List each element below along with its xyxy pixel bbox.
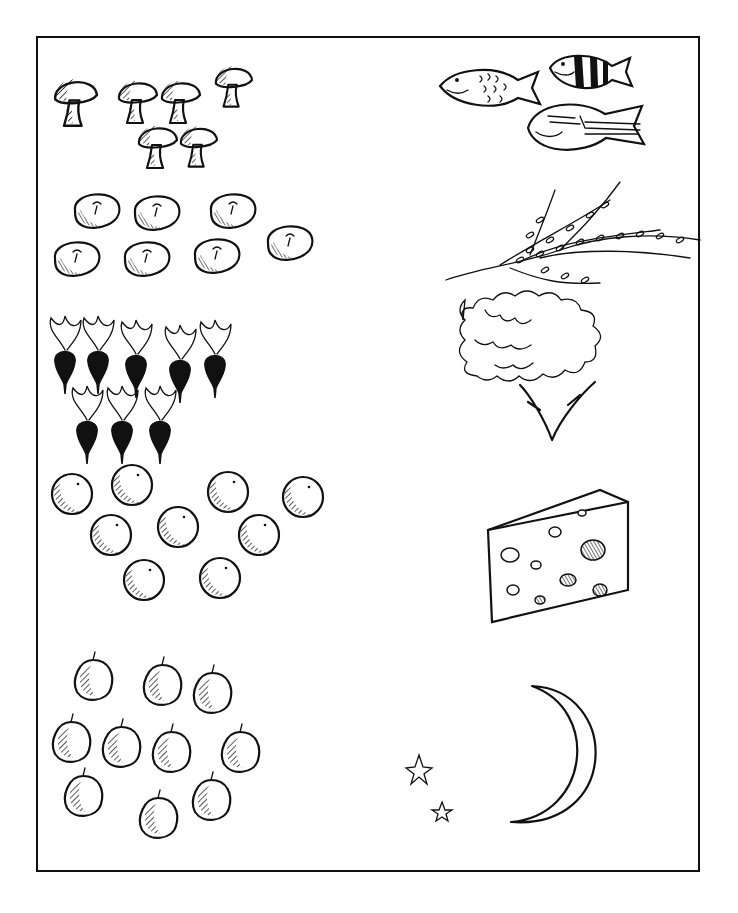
mushroom-icon	[162, 81, 200, 123]
mushroom-group	[55, 67, 252, 168]
orange-group	[52, 465, 323, 600]
worksheet-drawing	[0, 0, 738, 913]
crescent-moon-icon	[511, 686, 596, 822]
plum-icon	[193, 772, 230, 820]
mushroom-icon	[216, 67, 252, 107]
orange-icon	[124, 560, 164, 600]
plum-icon	[75, 652, 112, 700]
tomato-icon	[125, 242, 169, 276]
herb-leaf	[526, 246, 535, 253]
orange-icon	[283, 477, 323, 517]
cheese-wedge-icon	[488, 490, 628, 622]
orange-icon	[208, 472, 248, 512]
fish-icon	[440, 70, 540, 106]
night-sky-group	[406, 686, 596, 822]
tomato-icon	[135, 196, 179, 230]
tomato-icon	[55, 242, 99, 276]
tomato-group	[55, 194, 312, 276]
radish-icon	[83, 316, 114, 394]
radish-icon	[121, 320, 152, 398]
radish-icon	[200, 320, 231, 398]
herb-bunch-icon	[446, 182, 700, 440]
plum-icon	[140, 790, 177, 838]
mushroom-icon	[55, 79, 97, 125]
herb-leaf	[556, 244, 565, 251]
plum-icon	[103, 719, 140, 767]
orange-icon	[239, 515, 279, 555]
herb-leaf	[581, 276, 590, 283]
orange-icon	[52, 474, 92, 514]
mushroom-icon	[119, 81, 157, 123]
herb-leaf	[561, 272, 570, 279]
plum-icon	[194, 665, 231, 713]
radish-icon	[165, 325, 196, 403]
orange-icon	[91, 515, 131, 555]
radish-icon	[107, 386, 138, 464]
orange-icon	[112, 465, 152, 505]
fish-group	[440, 56, 644, 150]
star-icon	[406, 755, 432, 784]
plum-icon	[65, 768, 102, 816]
fish-icon	[550, 56, 632, 88]
herb-leaf	[516, 256, 525, 263]
plum-icon	[222, 724, 259, 772]
radish-icon	[50, 316, 81, 394]
plum-group	[53, 652, 259, 838]
plum-icon	[153, 724, 190, 772]
orange-icon	[158, 507, 198, 547]
radish-group	[50, 316, 231, 464]
mushroom-icon	[139, 126, 177, 168]
tomato-icon	[75, 194, 119, 228]
tomato-icon	[268, 226, 312, 260]
herb-leaf	[586, 211, 595, 218]
herb-leaf	[601, 201, 610, 208]
tomato-icon	[211, 194, 255, 228]
radish-icon	[72, 386, 103, 464]
star-icon	[432, 802, 452, 821]
plum-icon	[144, 657, 181, 705]
herb-leaf	[616, 232, 625, 239]
plum-icon	[53, 714, 90, 762]
fish-icon	[528, 105, 644, 150]
radish-icon	[145, 386, 176, 464]
mushroom-icon	[181, 127, 217, 167]
orange-icon	[200, 558, 240, 598]
herb-leaf	[541, 266, 550, 273]
tomato-icon	[195, 239, 239, 273]
herb-leaf	[526, 231, 535, 238]
